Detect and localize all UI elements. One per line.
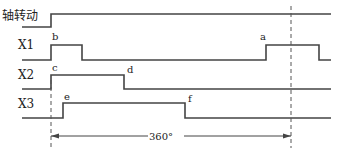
signal-x1: X1 [18, 38, 331, 60]
event-label-e: e [64, 91, 70, 102]
angle-label: 360° [149, 131, 173, 142]
waveform-x2 [22, 75, 331, 89]
signal-x2: X2 [18, 68, 331, 89]
signal-label: 轴转动 [2, 8, 38, 23]
signal-label: X1 [18, 38, 34, 52]
event-markers: bacdef [52, 31, 266, 104]
waveform-x3 [22, 103, 331, 118]
event-label-a: a [260, 31, 266, 42]
timing-diagram: 轴转动X1X2X3 bacdef 360° [0, 0, 339, 155]
signal-label: X2 [18, 68, 34, 82]
arrow-right-icon [283, 134, 291, 139]
reference-lines [51, 6, 291, 148]
waveform-x1 [22, 45, 331, 60]
event-label-d: d [127, 64, 134, 75]
event-label-f: f [188, 93, 193, 104]
signal-label: X3 [18, 97, 34, 111]
angle-dimension: 360° [51, 131, 291, 142]
event-label-c: c [52, 62, 58, 73]
signal-shaft: 轴转动 [2, 8, 331, 27]
waveform-shaft [22, 14, 331, 27]
event-label-b: b [52, 31, 58, 42]
arrow-left-icon [51, 134, 59, 139]
